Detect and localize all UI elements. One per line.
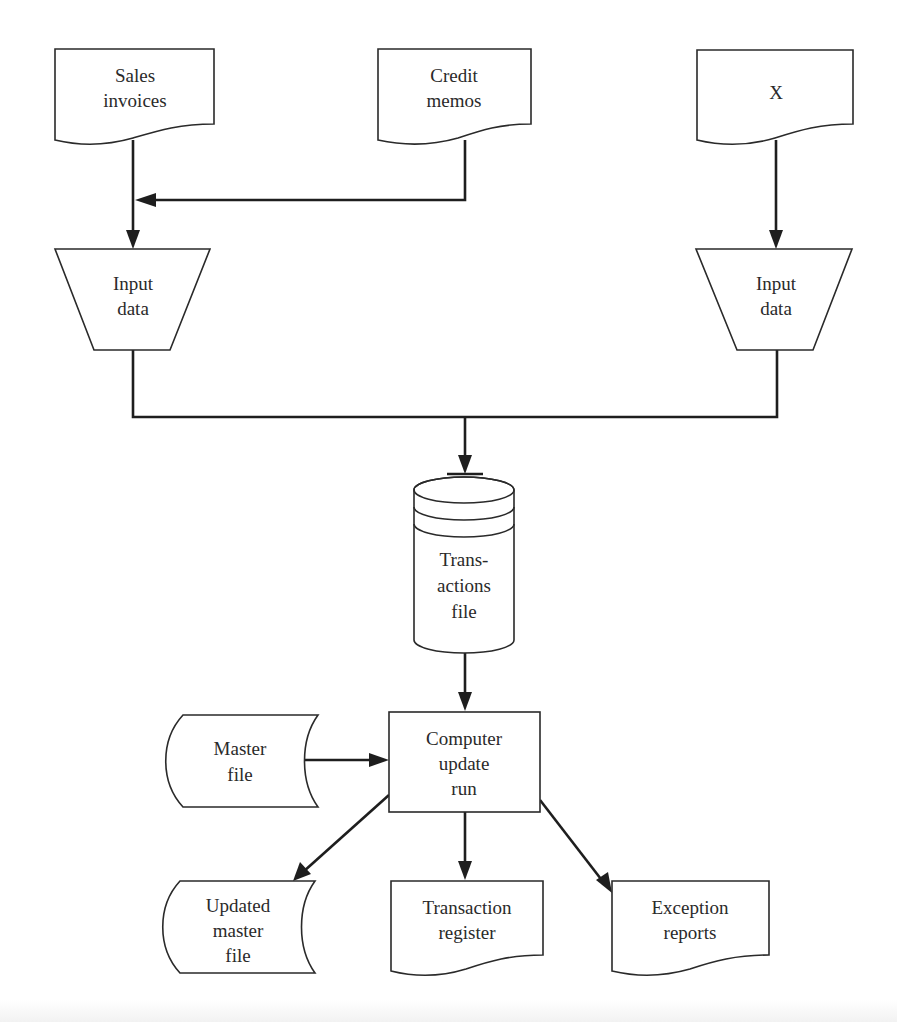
node-updated-master-file[interactable]: Updated master file (163, 881, 315, 973)
connector-run-to-exceptions (540, 800, 604, 883)
node-label: file (227, 764, 252, 785)
node-label: reports (664, 922, 717, 943)
node-label: update (439, 753, 490, 774)
arrowhead-icon (369, 753, 389, 767)
arrowhead-icon (293, 862, 311, 881)
node-label: data (117, 298, 149, 319)
node-label: file (451, 601, 476, 622)
arrowhead-icon (458, 692, 472, 711)
connector-inputs-merge (133, 350, 777, 417)
node-sales-invoices[interactable]: Sales invoices (55, 49, 214, 144)
node-label: actions (437, 575, 491, 596)
connector-credit-to-input (148, 140, 465, 200)
node-exception-reports[interactable]: Exception reports (612, 881, 769, 975)
node-transactions-file[interactable]: Trans- actions file (414, 477, 514, 653)
node-label: data (760, 298, 792, 319)
node-label: register (439, 922, 497, 943)
node-input-data-right[interactable]: Input data (696, 249, 852, 350)
node-label: memos (427, 90, 482, 111)
node-label: file (225, 945, 250, 966)
flowchart-svg: Sales invoices Credit memos X Input data… (0, 0, 897, 1022)
tape-storage-shape (166, 715, 318, 807)
node-label: Transaction (422, 897, 512, 918)
arrowhead-icon (458, 861, 472, 880)
node-credit-memos[interactable]: Credit memos (378, 49, 531, 144)
node-computer-update-run[interactable]: Computer update run (389, 712, 540, 812)
node-label: Trans- (440, 549, 489, 570)
node-label: Computer (426, 728, 503, 749)
arrowhead-icon (458, 455, 472, 474)
arrowhead-icon (126, 230, 140, 249)
node-label: master (213, 920, 264, 941)
page-edge-shade (0, 1000, 897, 1022)
node-label: Credit (430, 65, 478, 86)
flowchart-canvas: Sales invoices Credit memos X Input data… (0, 0, 897, 1022)
node-x-document[interactable]: X (697, 50, 853, 144)
node-input-data-left[interactable]: Input data (55, 249, 210, 350)
node-label: X (769, 82, 783, 103)
node-label: invoices (103, 90, 166, 111)
arrowhead-icon (769, 230, 783, 249)
arrowhead-icon (135, 193, 156, 207)
node-label: Master (214, 738, 267, 759)
node-transaction-register[interactable]: Transaction register (391, 881, 543, 975)
node-label: Sales (115, 65, 155, 86)
node-label: Input (756, 273, 797, 294)
node-label: Exception (651, 897, 729, 918)
node-label: run (451, 778, 477, 799)
node-label: Updated (206, 895, 271, 916)
node-label: Input (113, 273, 154, 294)
node-master-file[interactable]: Master file (166, 715, 318, 807)
